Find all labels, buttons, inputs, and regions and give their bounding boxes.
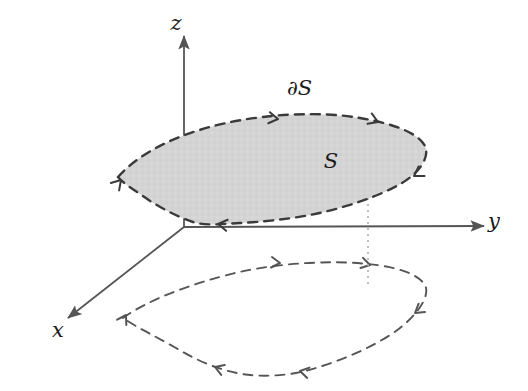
vector-calculus-diagram: x y z S ∂S: [0, 0, 528, 391]
z-axis-label: z: [169, 11, 182, 35]
x-axis-label: x: [52, 318, 64, 342]
x-axis: [68, 227, 184, 318]
surface-label-S: S: [324, 149, 338, 173]
y-axis: [184, 226, 484, 227]
boundary-label-dS: ∂S: [287, 76, 312, 100]
surface-region: [118, 114, 426, 224]
y-axis-label: y: [487, 209, 501, 233]
orientation-arrow-icon: [299, 366, 310, 378]
projection-orientation-arrows: [117, 257, 425, 378]
projection-curve: [123, 262, 426, 375]
